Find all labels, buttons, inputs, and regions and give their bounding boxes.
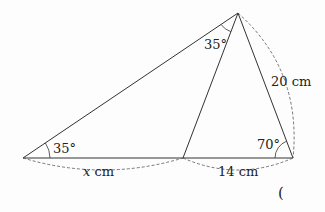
triangle-figure: 35° 35° 70° 20 cm x cm 14 cm (: [0, 0, 325, 212]
angle-label-A: 35°: [53, 141, 76, 156]
edge-BD: [183, 13, 238, 158]
geometry-diagram: 35° 35° 70° 20 cm x cm 14 cm (: [0, 0, 325, 212]
angle-label-C: 70°: [257, 137, 280, 152]
length-label-BC: 14 cm: [218, 164, 258, 179]
angle-arc-A: [45, 143, 50, 158]
angle-label-D: 35°: [204, 37, 227, 52]
edge-AD: [23, 13, 238, 158]
length-label-CD: 20 cm: [271, 74, 311, 89]
length-label-AB: x cm: [83, 164, 114, 179]
answer-paren: (: [278, 184, 284, 202]
angle-arc-D: [221, 25, 231, 32]
